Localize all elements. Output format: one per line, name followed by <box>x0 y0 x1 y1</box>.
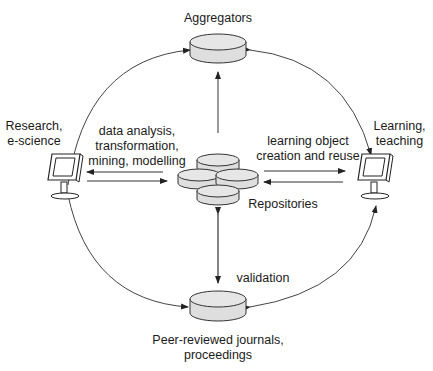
arc-journals-learning <box>250 206 376 307</box>
edge-label-line3: mining, modelling <box>82 154 192 169</box>
diagram-canvas <box>0 0 433 371</box>
learning-label-line1: Learning, <box>366 119 433 134</box>
research-computer-icon <box>48 154 83 199</box>
journals-label: Peer-reviewed journals, proceedings <box>148 333 288 363</box>
journals-cylinder-icon <box>190 291 246 321</box>
edge-label-line2: transformation, <box>82 139 192 154</box>
edge-label-line2: creation and reuse <box>252 149 364 164</box>
research-label-line2: e-science <box>0 134 68 149</box>
edge-label-line1: data analysis, <box>82 124 192 139</box>
aggregators-cylinder-icon <box>190 34 246 63</box>
aggregators-label: Aggregators <box>178 11 258 26</box>
research-label: Research, e-science <box>0 119 68 149</box>
learning-label-line2: teaching <box>366 134 433 149</box>
research-repo-edge-label: data analysis, transformation, mining, m… <box>82 124 192 169</box>
edge-label-line1: learning object <box>252 134 364 149</box>
learning-repo-edge-label: learning object creation and reuse <box>252 134 364 164</box>
journals-label-line1: Peer-reviewed journals, <box>148 333 288 348</box>
learning-label: Learning, teaching <box>366 119 433 149</box>
arc-research-to-journals <box>68 195 188 307</box>
repositories-label: Repositories <box>243 197 323 212</box>
journals-label-line2: proceedings <box>148 348 288 363</box>
research-label-line1: Research, <box>0 119 68 134</box>
validation-label: validation <box>230 271 296 286</box>
